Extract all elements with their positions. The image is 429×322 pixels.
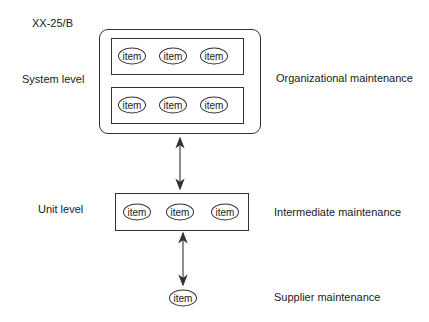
connector-arrows bbox=[0, 0, 429, 322]
double-arrow-icon bbox=[177, 138, 184, 189]
double-arrow-icon bbox=[180, 233, 187, 285]
